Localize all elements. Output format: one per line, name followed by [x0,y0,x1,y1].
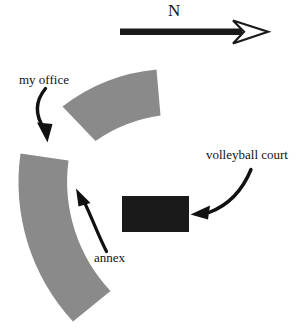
north-arrow [120,21,268,44]
volleyball-court-shape [122,196,189,232]
my-office-leader-arrow-shaft [38,89,46,129]
volleyball-court-leader-arrow [191,170,252,220]
map-canvas [0,0,301,335]
volleyball-court-leader-arrowhead-icon [191,206,211,220]
site-map-figure: N my office volleyball court annex [0,0,301,335]
annex-leader-arrowhead-icon [76,189,91,207]
my-office-label: my office [19,73,69,86]
my-office-leader-arrowhead-icon [37,123,53,143]
annex-leader-arrow-shaft [85,203,107,252]
my-office-leader-arrow [37,89,53,143]
annex-building-shape [18,154,110,322]
my-office-building-shape [63,70,161,142]
volleyball-court-label: volleyball court [206,148,288,161]
north-direction-label: N [168,2,180,19]
annex-label: annex [94,251,125,264]
annex-leader-arrow [76,189,107,252]
north-arrow-shaft [120,29,242,36]
volleyball-court-leader-arrow-shaft [209,170,251,213]
